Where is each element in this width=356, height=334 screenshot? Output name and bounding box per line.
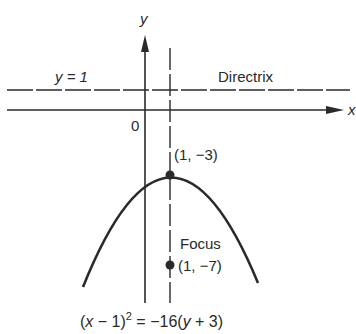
vertex-label: (1, −3) bbox=[174, 146, 218, 163]
parabola-equation: (x − 1)2 = −16(y + 3) bbox=[80, 310, 223, 330]
focus-point bbox=[166, 261, 175, 270]
eq-rhs-pre: = −16( bbox=[132, 313, 183, 330]
parabola-diagram: x y 0 y = 1 Directrix (1, −3) Focus (1, … bbox=[0, 0, 356, 334]
x-axis bbox=[7, 106, 344, 114]
x-axis-arrow-icon bbox=[326, 106, 344, 114]
eq-rhs-post: + 3) bbox=[191, 313, 223, 330]
y-axis bbox=[141, 35, 149, 303]
y-axis-arrow-icon bbox=[141, 35, 149, 52]
origin-label: 0 bbox=[131, 117, 139, 134]
directrix-name-label: Directrix bbox=[218, 68, 273, 85]
eq-lhs-rest: − 1) bbox=[93, 313, 125, 330]
focus-name-label: Focus bbox=[180, 235, 221, 252]
y-axis-label: y bbox=[139, 10, 149, 27]
x-axis-label: x bbox=[347, 101, 356, 118]
focus-coord-label: (1, −7) bbox=[178, 257, 222, 274]
vertex-point bbox=[166, 171, 175, 180]
directrix-equation-label: y = 1 bbox=[54, 68, 88, 85]
